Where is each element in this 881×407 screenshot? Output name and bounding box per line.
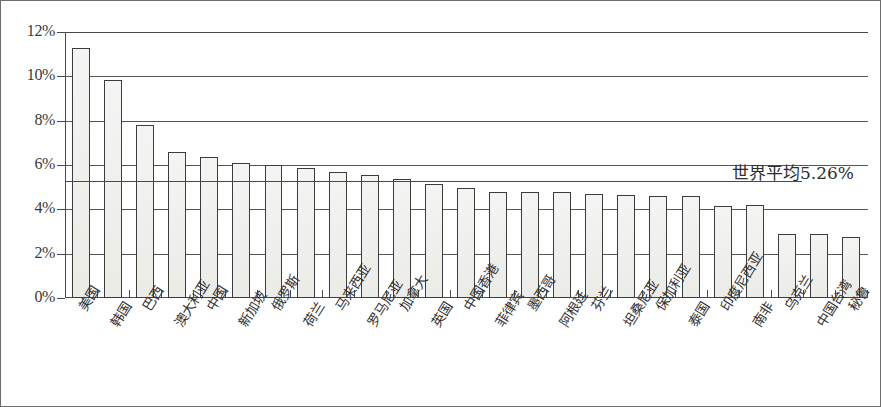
y-tick-label: 10%	[3, 66, 55, 84]
bar	[393, 179, 411, 298]
chart-frame: 0%2%4%6%8%10%12% 世界平均5.26% 美国韩国巴西澳大利亚中国新…	[0, 0, 881, 407]
x-tick-mark	[482, 290, 483, 298]
x-tick-label: 英国	[425, 297, 456, 330]
bar	[810, 234, 828, 298]
x-tick-mark	[867, 290, 868, 298]
x-tick-label: 泰国	[682, 297, 713, 330]
x-tick-mark	[546, 290, 547, 298]
bar	[329, 172, 347, 298]
y-tick-label: 8%	[3, 111, 55, 129]
x-tick-mark	[578, 290, 579, 298]
bar	[297, 168, 315, 298]
x-tick-mark	[771, 290, 772, 298]
y-tick-mark	[57, 32, 65, 33]
x-tick-mark	[386, 290, 387, 298]
bar	[265, 165, 283, 298]
x-tick-mark	[514, 290, 515, 298]
bar	[842, 237, 860, 298]
bar	[778, 234, 796, 298]
bar	[425, 184, 443, 298]
bar	[136, 125, 154, 298]
x-tick-mark	[129, 290, 130, 298]
y-tick-mark	[57, 76, 65, 77]
x-tick-mark	[835, 290, 836, 298]
bar	[714, 206, 732, 298]
bar	[361, 175, 379, 298]
x-tick-mark	[642, 290, 643, 298]
x-tick-mark	[225, 290, 226, 298]
x-tick-mark	[161, 290, 162, 298]
x-tick-mark	[707, 290, 708, 298]
x-tick-label: 南非	[746, 297, 777, 330]
x-tick-mark	[97, 290, 98, 298]
bar	[232, 163, 250, 298]
x-tick-mark	[739, 290, 740, 298]
y-tick-mark	[57, 209, 65, 210]
x-tick-mark	[193, 290, 194, 298]
bar	[200, 157, 218, 298]
x-tick-mark	[65, 290, 66, 298]
x-tick-mark	[450, 290, 451, 298]
y-tick-mark	[57, 298, 65, 299]
bar	[489, 192, 507, 298]
bar	[457, 188, 475, 298]
x-tick-label: 韩国	[104, 297, 135, 330]
bar	[168, 152, 186, 298]
x-tick-mark	[610, 290, 611, 298]
bar	[617, 195, 635, 298]
y-tick-label: 12%	[3, 22, 55, 40]
world-average-label: 世界平均5.26%	[732, 159, 854, 184]
bar	[521, 192, 539, 298]
bar	[585, 194, 603, 298]
y-tick-mark	[57, 254, 65, 255]
world-average-line	[65, 181, 802, 182]
x-tick-mark	[418, 290, 419, 298]
bar	[72, 48, 90, 298]
x-tick-label: 荷兰	[297, 297, 328, 330]
x-tick-mark	[322, 290, 323, 298]
x-tick-mark	[354, 290, 355, 298]
x-tick-mark	[803, 290, 804, 298]
y-tick-label: 0%	[3, 288, 55, 306]
y-tick-label: 2%	[3, 244, 55, 262]
x-tick-mark	[675, 290, 676, 298]
bar	[553, 192, 571, 298]
y-tick-label: 6%	[3, 155, 55, 173]
bar	[104, 80, 122, 298]
y-tick-mark	[57, 165, 65, 166]
bar	[649, 196, 667, 298]
bar	[746, 205, 764, 298]
y-tick-label: 4%	[3, 199, 55, 217]
x-tick-mark	[257, 290, 258, 298]
bar	[682, 196, 700, 298]
x-tick-mark	[290, 290, 291, 298]
y-tick-mark	[57, 121, 65, 122]
